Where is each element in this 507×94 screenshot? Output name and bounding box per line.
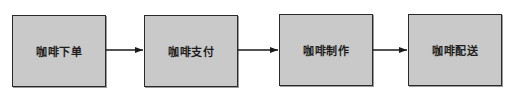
node-label: 咖啡下单: [36, 43, 82, 59]
node-coffee-payment: 咖啡支付: [144, 15, 238, 87]
node-label: 咖啡制作: [303, 42, 349, 58]
node-coffee-making: 咖啡制作: [279, 14, 373, 86]
node-coffee-delivery: 咖啡配送: [408, 14, 502, 86]
node-coffee-order: 咖啡下单: [12, 15, 106, 87]
node-label: 咖啡支付: [168, 43, 214, 59]
node-label: 咖啡配送: [432, 42, 478, 58]
